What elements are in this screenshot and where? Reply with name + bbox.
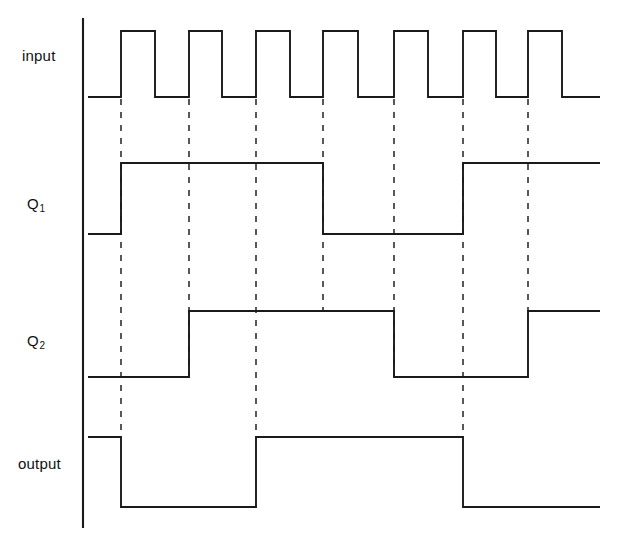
waveform-traces (88, 31, 600, 507)
signal-label-output-text: output (18, 455, 61, 472)
signal-label-q1: Q1 (27, 195, 45, 212)
signal-label-input: input (22, 47, 56, 64)
timing-diagram-figure: input Q1 Q2 output (0, 0, 621, 545)
waveform-q2 (88, 311, 600, 377)
signal-label-q1-subscript: 1 (39, 203, 45, 214)
signal-label-output: output (18, 455, 61, 472)
waveform-q1 (88, 163, 600, 234)
signal-label-input-text: input (22, 47, 56, 64)
signal-label-q2: Q2 (27, 332, 45, 349)
clock-reference-dashed-lines (121, 99, 528, 437)
signal-label-q2-subscript: 2 (39, 340, 45, 351)
timing-diagram-canvas (0, 0, 621, 545)
signal-label-q1-base: Q (27, 195, 39, 212)
signal-label-q2-base: Q (27, 332, 39, 349)
waveform-input (88, 31, 600, 97)
waveform-output (88, 437, 600, 507)
